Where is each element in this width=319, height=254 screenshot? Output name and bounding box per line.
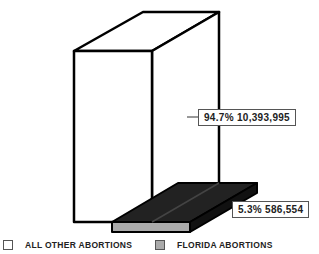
bar-front-face bbox=[74, 51, 152, 222]
legend-label: ALL OTHER ABORTIONS bbox=[25, 240, 132, 250]
legend: ALL OTHER ABORTIONS FLORIDA ABORTIONS bbox=[0, 240, 319, 254]
legend-item-all-other: ALL OTHER ABORTIONS bbox=[3, 240, 132, 250]
data-label-all-other: 94.7% 10,393,995 bbox=[198, 109, 296, 126]
data-label-florida: 5.3% 586,554 bbox=[232, 201, 309, 218]
legend-swatch-gray bbox=[155, 240, 165, 250]
legend-item-florida: FLORIDA ABORTIONS bbox=[155, 240, 273, 250]
slab-front-face bbox=[112, 222, 190, 232]
legend-swatch-white bbox=[3, 240, 13, 250]
legend-label: FLORIDA ABORTIONS bbox=[177, 240, 273, 250]
